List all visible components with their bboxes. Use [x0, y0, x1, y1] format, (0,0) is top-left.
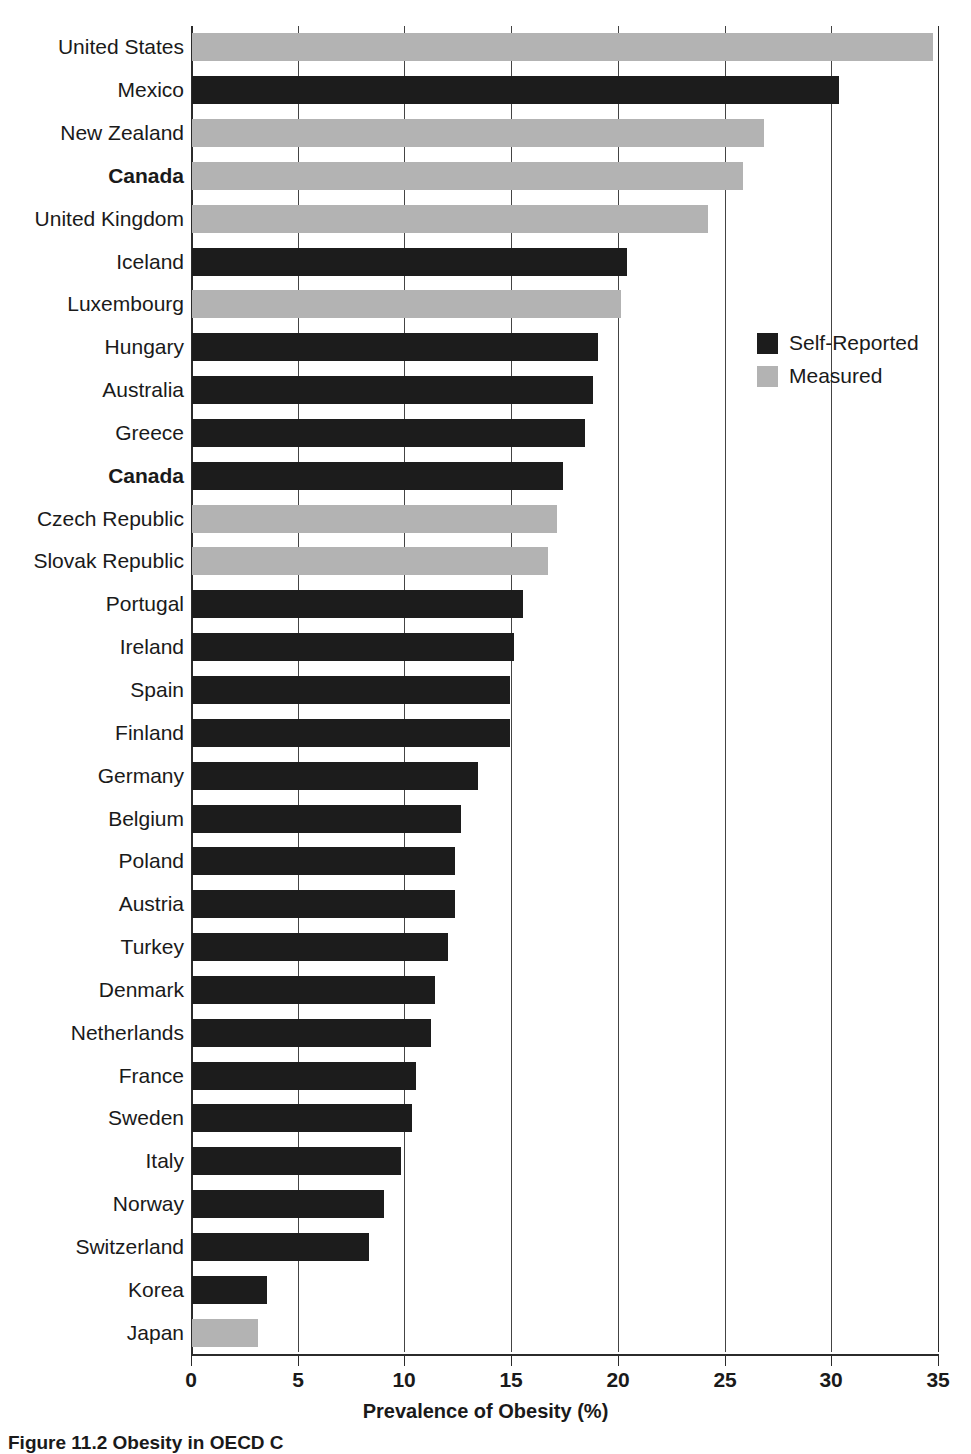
bar-netherlands-23 — [192, 1019, 431, 1047]
bar-switzerland-28 — [192, 1233, 369, 1261]
category-label-france-24: France — [119, 1065, 184, 1086]
category-label-sweden-25: Sweden — [108, 1107, 184, 1128]
bar-hungary-7 — [192, 333, 598, 361]
bar-poland-19 — [192, 847, 455, 875]
category-label-iceland-5: Iceland — [116, 251, 184, 272]
bar-germany-17 — [192, 762, 478, 790]
x-axis-line — [191, 1354, 939, 1356]
category-label-mexico-1: Mexico — [117, 79, 184, 100]
bar-czech-republic-11 — [192, 505, 557, 533]
bar-australia-8 — [192, 376, 593, 404]
category-label-norway-27: Norway — [113, 1193, 184, 1214]
bar-belgium-18 — [192, 805, 461, 833]
legend-item-self-reported: Self-Reported — [757, 331, 919, 355]
x-tick-label-20: 20 — [607, 1368, 630, 1392]
category-label-poland-19: Poland — [119, 850, 184, 871]
x-tick-0 — [191, 1354, 192, 1366]
bar-denmark-22 — [192, 976, 435, 1004]
bar-canada-3 — [192, 162, 743, 190]
category-label-czech-republic-11: Czech Republic — [37, 508, 184, 529]
bar-greece-9 — [192, 419, 585, 447]
legend-item-measured: Measured — [757, 364, 919, 388]
bar-turkey-21 — [192, 933, 448, 961]
bar-united-states-0 — [192, 33, 933, 61]
bar-italy-26 — [192, 1147, 401, 1175]
bar-japan-30 — [192, 1319, 258, 1347]
bar-austria-20 — [192, 890, 455, 918]
x-tick-10 — [404, 1354, 405, 1366]
x-tick-5 — [298, 1354, 299, 1366]
x-tick-label-30: 30 — [820, 1368, 843, 1392]
gridline-30 — [831, 26, 832, 1352]
category-label-belgium-18: Belgium — [108, 808, 184, 829]
gridline-25 — [725, 26, 726, 1352]
bar-sweden-25 — [192, 1104, 412, 1132]
category-label-denmark-22: Denmark — [99, 979, 184, 1000]
category-label-italy-26: Italy — [145, 1150, 184, 1171]
category-label-new-zealand-2: New Zealand — [60, 122, 184, 143]
x-axis-title: Prevalence of Obesity (%) — [0, 1400, 971, 1423]
bar-ireland-14 — [192, 633, 514, 661]
category-label-switzerland-28: Switzerland — [75, 1236, 184, 1257]
bar-united-kingdom-4 — [192, 205, 708, 233]
category-label-korea-29: Korea — [128, 1279, 184, 1300]
x-tick-label-0: 0 — [185, 1368, 196, 1392]
x-tick-30 — [831, 1354, 832, 1366]
chart-legend: Self-Reported Measured — [757, 331, 919, 397]
legend-swatch-self-reported-icon — [757, 333, 778, 354]
gridline-35 — [938, 26, 939, 1352]
bar-norway-27 — [192, 1190, 384, 1218]
x-tick-20 — [618, 1354, 619, 1366]
bar-spain-15 — [192, 676, 510, 704]
category-label-hungary-7: Hungary — [105, 336, 184, 357]
bar-korea-29 — [192, 1276, 267, 1304]
category-label-ireland-14: Ireland — [120, 636, 184, 657]
category-label-australia-8: Australia — [102, 379, 184, 400]
bar-luxembourg-6 — [192, 290, 621, 318]
legend-label-measured: Measured — [789, 364, 882, 388]
category-label-turkey-21: Turkey — [121, 936, 184, 957]
category-label-germany-17: Germany — [98, 765, 184, 786]
category-label-canada-10: Canada — [108, 465, 184, 486]
category-label-portugal-13: Portugal — [106, 593, 184, 614]
category-label-luxembourg-6: Luxembourg — [67, 293, 184, 314]
category-label-greece-9: Greece — [115, 422, 184, 443]
bar-france-24 — [192, 1062, 416, 1090]
x-tick-label-15: 15 — [500, 1368, 523, 1392]
bar-new-zealand-2 — [192, 119, 764, 147]
x-tick-label-25: 25 — [714, 1368, 737, 1392]
category-label-austria-20: Austria — [119, 893, 184, 914]
category-label-canada-3: Canada — [108, 165, 184, 186]
bar-iceland-5 — [192, 248, 627, 276]
category-label-japan-30: Japan — [127, 1322, 184, 1343]
bar-finland-16 — [192, 719, 510, 747]
category-label-spain-15: Spain — [130, 679, 184, 700]
x-tick-label-10: 10 — [393, 1368, 416, 1392]
x-tick-label-5: 5 — [292, 1368, 303, 1392]
x-tick-35 — [938, 1354, 939, 1366]
category-label-united-states-0: United States — [58, 36, 184, 57]
category-label-netherlands-23: Netherlands — [71, 1022, 184, 1043]
bar-portugal-13 — [192, 590, 523, 618]
x-tick-25 — [725, 1354, 726, 1366]
category-label-finland-16: Finland — [115, 722, 184, 743]
category-label-slovak-republic-12: Slovak Republic — [33, 550, 184, 571]
bar-canada-10 — [192, 462, 563, 490]
bar-slovak-republic-12 — [192, 547, 548, 575]
legend-swatch-measured-icon — [757, 366, 778, 387]
legend-label-self-reported: Self-Reported — [789, 331, 919, 355]
figure-caption: Figure 11.2 Obesity in OECD C — [8, 1432, 284, 1454]
x-tick-15 — [511, 1354, 512, 1366]
x-tick-label-35: 35 — [927, 1368, 950, 1392]
bar-mexico-1 — [192, 76, 839, 104]
category-label-united-kingdom-4: United Kingdom — [35, 208, 184, 229]
